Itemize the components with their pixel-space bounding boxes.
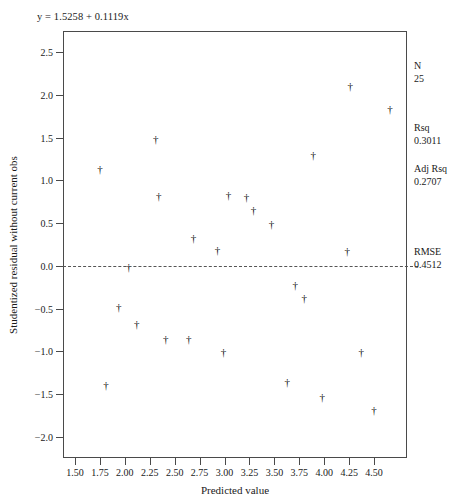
- y-axis-tick-label: 0.5: [41, 218, 54, 229]
- x-axis-tick-label: 4.00: [315, 467, 333, 478]
- data-point: †: [215, 244, 221, 255]
- y-axis-tick: [56, 266, 63, 267]
- data-point: †: [347, 80, 353, 91]
- y-axis-tick-label: 1.0: [41, 175, 54, 186]
- x-axis-tick-label: 2.50: [166, 467, 184, 478]
- x-axis-tick-label: 3.00: [216, 467, 234, 478]
- data-point: †: [226, 190, 232, 201]
- data-point: †: [244, 191, 250, 202]
- stat-n: N 25: [414, 60, 424, 85]
- x-axis-tick: [324, 458, 325, 465]
- data-point: †: [186, 334, 192, 345]
- x-axis-tick-label: 3.50: [266, 467, 284, 478]
- stat-rmse-value: 0.4512: [414, 259, 442, 272]
- x-axis-tick: [299, 458, 300, 465]
- x-axis-tick: [349, 458, 350, 465]
- data-point: †: [344, 246, 350, 257]
- y-axis-tick-label: 2.0: [41, 90, 54, 101]
- data-point: †: [311, 149, 317, 160]
- stat-rmse: RMSE 0.4512: [414, 246, 442, 271]
- data-point: †: [103, 379, 109, 390]
- y-axis-tick-label: −2.0: [35, 431, 53, 442]
- x-axis-tick: [175, 458, 176, 465]
- y-axis-tick-label: −0.5: [35, 303, 53, 314]
- x-axis-tick: [274, 458, 275, 465]
- y-axis-tick: [56, 394, 63, 395]
- data-point: †: [163, 334, 169, 345]
- stat-rsq-value: 0.3011: [414, 135, 441, 148]
- data-point: †: [251, 205, 257, 216]
- residual-scatter-figure: y = 1.5258 + 0.1119x †††††††††††††††††††…: [0, 0, 459, 504]
- x-axis-tick-label: 2.00: [116, 467, 134, 478]
- stat-n-label: N: [414, 60, 424, 73]
- x-axis-tick: [100, 458, 101, 465]
- y-axis-title: Studentized residual without current obs: [6, 31, 20, 458]
- y-axis-tick: [56, 138, 63, 139]
- y-axis-tick: [56, 52, 63, 53]
- y-axis-title-text: Studentized residual without current obs: [7, 156, 19, 334]
- y-axis-tick: [56, 351, 63, 352]
- regression-equation-label: y = 1.5258 + 0.1119x: [37, 11, 129, 22]
- data-point: †: [387, 103, 393, 114]
- data-point: †: [371, 405, 377, 416]
- data-point: †: [302, 292, 308, 303]
- data-point: †: [358, 347, 364, 358]
- data-point: †: [320, 391, 326, 402]
- data-point: †: [134, 319, 140, 330]
- y-axis-tick-label: 1.5: [41, 132, 54, 143]
- stat-adj-rsq-label: Adj Rsq: [414, 163, 447, 176]
- data-point: †: [116, 301, 122, 312]
- y-axis-tick-label: −1.0: [35, 346, 53, 357]
- data-point: †: [156, 190, 162, 201]
- y-axis-tick: [56, 437, 63, 438]
- x-axis-tick: [150, 458, 151, 465]
- x-axis-tick-label: 3.75: [291, 467, 309, 478]
- x-axis-tick-label: 4.50: [365, 467, 383, 478]
- x-axis-tick-label: 2.75: [191, 467, 209, 478]
- y-axis-tick: [56, 223, 63, 224]
- x-axis-tick-label: 4.25: [340, 467, 358, 478]
- y-axis-tick: [56, 180, 63, 181]
- data-point: †: [285, 377, 291, 388]
- x-axis-title: Predicted value: [63, 484, 407, 496]
- x-axis-tick: [225, 458, 226, 465]
- y-axis-tick-label: 2.5: [41, 47, 54, 58]
- data-points-layer: ††††††††††††††††††††††††††: [64, 32, 406, 457]
- y-axis-tick-label: 0.0: [41, 260, 54, 271]
- statistics-panel: N 25 Rsq 0.3011 Adj Rsq 0.2707 RMSE 0.45…: [414, 31, 459, 458]
- data-point: †: [293, 279, 299, 290]
- plot-area: ††††††††††††††††††††††††††: [63, 31, 407, 458]
- x-axis-tick-label: 1.50: [66, 467, 84, 478]
- stat-adj-rsq-value: 0.2707: [414, 176, 447, 189]
- x-axis-tick-label: 2.25: [141, 467, 159, 478]
- y-axis-tick-label: −1.5: [35, 388, 53, 399]
- x-axis-tick: [125, 458, 126, 465]
- data-point: †: [126, 261, 132, 272]
- x-axis-tick: [249, 458, 250, 465]
- data-point: †: [269, 219, 275, 230]
- x-axis-tick: [200, 458, 201, 465]
- data-point: †: [97, 163, 103, 174]
- x-axis-tick: [374, 458, 375, 465]
- data-point: †: [221, 347, 227, 358]
- stat-adj-rsq: Adj Rsq 0.2707: [414, 163, 447, 188]
- stat-rmse-label: RMSE: [414, 246, 442, 259]
- x-axis-tick-label: 3.25: [241, 467, 259, 478]
- y-axis-tick: [56, 309, 63, 310]
- data-point: †: [191, 232, 197, 243]
- stat-n-value: 25: [414, 73, 424, 86]
- zero-reference-line: [63, 266, 418, 267]
- data-point: †: [153, 133, 159, 144]
- x-axis-tick-label: 1.75: [91, 467, 109, 478]
- y-axis-tick: [56, 95, 63, 96]
- x-axis-tick: [75, 458, 76, 465]
- stat-rsq-label: Rsq: [414, 122, 441, 135]
- stat-rsq: Rsq 0.3011: [414, 122, 441, 147]
